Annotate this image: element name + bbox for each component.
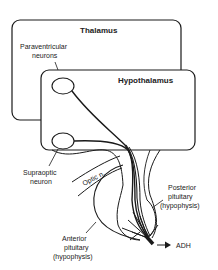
posterior-pituitary	[147, 200, 156, 236]
paraventricular-label-line2: neurons	[32, 52, 58, 59]
supraoptic-label-line1: Supraoptic	[23, 169, 57, 177]
posterior-label-line2: pituitary	[168, 193, 193, 201]
stalk-left	[52, 150, 140, 240]
posterior-label-line3: (hypophysis)	[160, 202, 200, 210]
hypothalamus-label: Hypothalamus	[118, 76, 174, 85]
supraoptic-label-line2: neuron	[30, 178, 52, 185]
adh-label: ADH	[176, 242, 191, 249]
supraoptic-neuron	[52, 133, 74, 149]
supraoptic-leader	[49, 149, 58, 166]
hypothalamus-pituitary-diagram: Thalamus Paraventricular neurons Hypotha…	[0, 0, 218, 270]
anterior-label-line3: (hypophysis)	[53, 253, 93, 261]
thalamus-label: Thalamus	[80, 26, 118, 35]
axon-terminals	[122, 212, 158, 240]
anterior-label-line2: pituitary	[64, 244, 89, 252]
paraventricular-label-line1: Paraventricular	[20, 43, 68, 50]
optic-nerve-label: Optic n.	[81, 169, 106, 187]
anterior-label-line1: Anterior	[62, 235, 87, 242]
paraventricular-neuron	[52, 78, 74, 94]
posterior-label-line1: Posterior	[168, 184, 197, 191]
stalk-right	[148, 150, 160, 238]
anterior-leader	[86, 222, 96, 233]
adh-arrowhead	[165, 242, 171, 249]
